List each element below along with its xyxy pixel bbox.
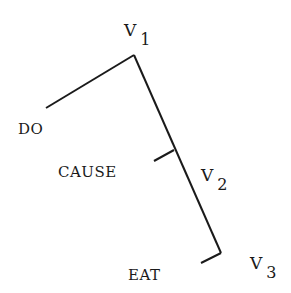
node-v1-subscript: 1	[140, 30, 150, 49]
node-v3-subscript: 3	[266, 263, 276, 282]
leaf-do: DO	[18, 122, 43, 137]
edge-v2-cause	[154, 150, 174, 161]
node-v3: V3	[250, 255, 276, 272]
edge-v3-eat	[201, 253, 221, 263]
node-v1: V1	[124, 22, 150, 39]
leaf-cause: CAUSE	[58, 165, 117, 180]
node-v1-letter: V	[124, 20, 136, 40]
edge-v1-v3-trunk	[134, 55, 221, 253]
edge-v1-do	[46, 55, 134, 108]
tree-diagram: V1 DO CAUSE V2 EAT V3	[0, 0, 291, 293]
node-v2-letter: V	[201, 165, 213, 185]
node-v3-letter: V	[250, 253, 262, 273]
node-v2-subscript: 2	[217, 175, 227, 194]
leaf-eat: EAT	[128, 268, 160, 283]
node-v2: V2	[201, 167, 227, 184]
